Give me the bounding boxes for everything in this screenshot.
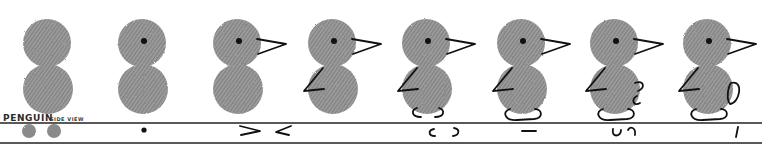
eye-icon — [520, 38, 526, 44]
illustration-canvas — [0, 0, 762, 157]
beak-stroke — [240, 126, 260, 135]
beak-icon — [352, 39, 381, 54]
penguin-step-3 — [213, 19, 286, 114]
head-thumbprint — [23, 19, 71, 67]
penguin-step-5 — [398, 19, 475, 117]
eye-icon — [613, 38, 619, 44]
penguin-drawing-guide: PENGUIN SIDE VIEW — [0, 0, 762, 157]
thumbprint-dot — [22, 124, 36, 138]
feet-brackets-icon — [430, 128, 459, 136]
penguin-step-6 — [493, 19, 570, 120]
penguin-step-8 — [679, 19, 756, 120]
eye-icon — [425, 38, 431, 44]
title-label: PENGUIN — [3, 113, 53, 123]
beak-icon — [257, 39, 286, 54]
penguin-step-4 — [304, 19, 381, 114]
foot-bracket — [430, 129, 435, 136]
tail-curl — [628, 128, 635, 135]
subtitle-label: SIDE VIEW — [50, 116, 84, 122]
penguin-step-7 — [586, 19, 663, 120]
eye-dot — [141, 127, 146, 132]
legend-row — [22, 124, 738, 138]
eye-icon — [706, 38, 712, 44]
beak-icon — [446, 39, 475, 54]
penguin-step-2 — [118, 19, 168, 114]
body-thumbprint — [23, 64, 73, 114]
dot-icon — [141, 127, 146, 132]
eye-icon — [331, 38, 337, 44]
flipper-stroke — [276, 126, 291, 135]
tick-icon — [736, 127, 738, 137]
eye-icon — [236, 38, 242, 44]
figures-row — [23, 19, 756, 120]
beak-icon — [727, 39, 756, 54]
tail-tick — [736, 127, 738, 137]
eye-icon — [141, 38, 147, 44]
curl-strokes-icon — [613, 128, 635, 136]
two-gray-dots-icon — [22, 124, 61, 138]
penguin-step-1 — [23, 19, 73, 114]
beak-icon — [541, 39, 570, 54]
foot-bracket — [453, 128, 458, 136]
beak-icon — [634, 39, 663, 54]
thumbprint-dot — [47, 124, 61, 138]
tail-curl — [613, 129, 621, 136]
body-thumbprint — [213, 64, 263, 114]
body-thumbprint — [118, 64, 168, 114]
beak-strokes-icon — [240, 126, 291, 135]
